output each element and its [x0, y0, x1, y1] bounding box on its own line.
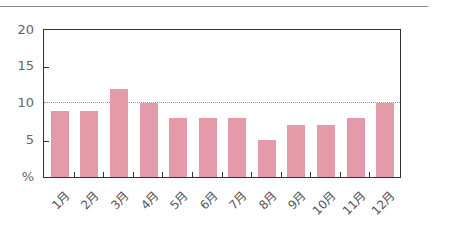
bar — [140, 103, 158, 177]
y-tick-label: % — [4, 170, 34, 183]
plot-area — [43, 29, 401, 178]
bar — [287, 125, 305, 177]
x-tick-mark — [369, 172, 370, 177]
x-tick-mark — [340, 172, 341, 177]
x-tick-mark — [222, 172, 223, 177]
x-tick-label: 4月 — [121, 186, 161, 226]
bar — [110, 89, 128, 178]
top-divider — [0, 6, 428, 7]
bar — [51, 111, 69, 177]
y-tick-mark — [44, 67, 49, 68]
x-tick-mark — [103, 172, 104, 177]
bar — [199, 118, 217, 177]
y-tick-mark — [44, 141, 49, 142]
bar — [228, 118, 246, 177]
x-tick-mark — [310, 172, 311, 177]
x-tick-mark — [251, 172, 252, 177]
x-tick-mark — [74, 172, 75, 177]
x-tick-mark — [281, 172, 282, 177]
bar — [258, 140, 276, 177]
x-tick-mark — [133, 172, 134, 177]
reference-line — [44, 102, 400, 103]
bar — [317, 125, 335, 177]
bar — [169, 118, 187, 177]
bar — [80, 111, 98, 177]
y-tick-label: 5 — [4, 133, 34, 146]
x-tick-label: 10月 — [299, 186, 339, 226]
y-tick-label: 20 — [4, 23, 34, 36]
x-tick-label: 7月 — [210, 186, 250, 226]
x-tick-mark — [192, 172, 193, 177]
x-tick-label: 3月 — [92, 186, 132, 226]
bar — [376, 103, 394, 177]
bar — [347, 118, 365, 177]
x-tick-label: 6月 — [180, 186, 220, 226]
x-tick-label: 11月 — [328, 186, 368, 226]
x-tick-mark — [162, 172, 163, 177]
y-tick-label: 15 — [4, 59, 34, 72]
y-tick-label: 10 — [4, 96, 34, 109]
x-tick-label: 2月 — [62, 186, 102, 226]
x-tick-label: 9月 — [269, 186, 309, 226]
